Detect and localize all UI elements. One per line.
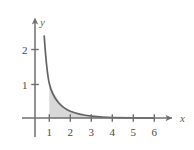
x-tick-label-2: 2 [68, 126, 74, 138]
y-axis-label: y [39, 16, 45, 28]
x-tick-label-1: 1 [47, 126, 53, 138]
y-tick-label-1: 1 [22, 79, 28, 91]
x-axis-label: x [179, 112, 185, 124]
x-tick-label-5: 5 [131, 126, 137, 138]
figure-container: 1 2 3 4 5 6 1 2 x y [0, 0, 194, 150]
curve-path [44, 36, 154, 118]
x-tick-label-6: 6 [152, 126, 158, 138]
shaded-region [49, 84, 154, 119]
x-tick-label-4: 4 [110, 126, 116, 138]
x-tick-label-3: 3 [89, 126, 95, 138]
y-tick-label-2: 2 [22, 44, 28, 56]
plot-svg: 1 2 3 4 5 6 1 2 x y [0, 0, 194, 150]
